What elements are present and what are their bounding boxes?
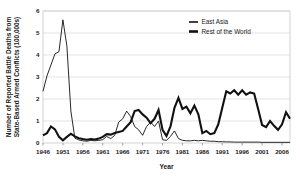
- y-tick-label-6: 6: [36, 7, 40, 14]
- x-tick-label-1976: 1976: [156, 148, 170, 155]
- legend-label-1: Rest of the World: [202, 28, 252, 35]
- y-axis-title-line-2: State-Based Armed Conflicts (100,000s): [13, 17, 21, 138]
- x-tick-label-1981: 1981: [176, 148, 190, 155]
- x-tick-label-1971: 1971: [136, 148, 150, 155]
- y-tick-label-4: 4: [36, 51, 40, 58]
- x-tick-label-1991: 1991: [215, 148, 229, 155]
- x-tick-label-2006: 2006: [275, 148, 289, 155]
- y-tick-label-5: 5: [36, 29, 40, 36]
- chart-background: [0, 0, 300, 185]
- y-tick-label-0: 0: [36, 139, 40, 146]
- x-tick-label-1966: 1966: [116, 148, 130, 155]
- x-tick-label-1996: 1996: [235, 148, 249, 155]
- x-axis-title: Year: [160, 163, 174, 170]
- battle-deaths-line-chart: 0123456 19461951195619611966197119761981…: [0, 0, 300, 185]
- x-tick-label-1956: 1956: [76, 148, 90, 155]
- y-axis-title: Number of Reported Battle Deaths from St…: [5, 16, 21, 137]
- x-tick-label-1961: 1961: [96, 148, 110, 155]
- y-axis-title-line-1: Number of Reported Battle Deaths from: [5, 16, 13, 137]
- legend-label-0: East Asia: [202, 18, 229, 25]
- x-tick-label-1951: 1951: [56, 148, 70, 155]
- x-tick-label-2001: 2001: [255, 148, 269, 155]
- y-tick-label-3: 3: [36, 73, 40, 80]
- chart-canvas: 0123456 19461951195619611966197119761981…: [0, 0, 300, 185]
- x-tick-label-1986: 1986: [195, 148, 209, 155]
- y-tick-label-1: 1: [36, 117, 40, 124]
- y-tick-label-2: 2: [36, 95, 40, 102]
- x-tick-label-1946: 1946: [36, 148, 50, 155]
